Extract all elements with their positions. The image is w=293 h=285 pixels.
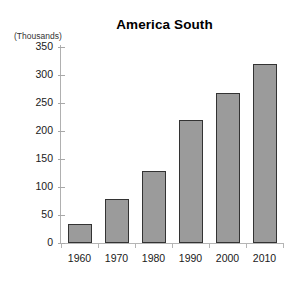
bar-chart-figure: (Thousands) America South 05010015020025… (0, 0, 293, 285)
bar (179, 120, 203, 243)
y-axis-tick-label: 350 (0, 41, 53, 52)
bar (105, 199, 129, 243)
x-axis-tick-label: 2010 (242, 253, 288, 264)
y-axis-tick-label: 150 (0, 153, 53, 164)
bar (216, 93, 240, 243)
x-axis-tick (209, 243, 210, 248)
x-axis-tick (172, 243, 173, 248)
x-axis-tick (283, 243, 284, 248)
bar (142, 171, 166, 243)
bar (68, 224, 92, 243)
x-axis-tick (61, 243, 62, 248)
y-axis-tick (58, 215, 65, 216)
x-axis-tick (135, 243, 136, 248)
chart-title: America South (0, 17, 293, 32)
y-axis-tick-label: 0 (0, 237, 53, 248)
y-axis-tick (58, 159, 65, 160)
y-axis-tick-label: 50 (0, 209, 53, 220)
y-axis-tick (58, 47, 65, 48)
y-axis-tick (58, 103, 65, 104)
y-axis-tick-label: 250 (0, 97, 53, 108)
y-axis-tick (58, 131, 65, 132)
y-axis-tick (58, 75, 65, 76)
y-axis-tick-label: 200 (0, 125, 53, 136)
x-axis-tick (98, 243, 99, 248)
bar (253, 64, 277, 243)
y-axis-tick-label: 100 (0, 181, 53, 192)
y-axis-tick (58, 187, 65, 188)
y-axis-tick-label: 300 (0, 69, 53, 80)
x-axis-tick (246, 243, 247, 248)
